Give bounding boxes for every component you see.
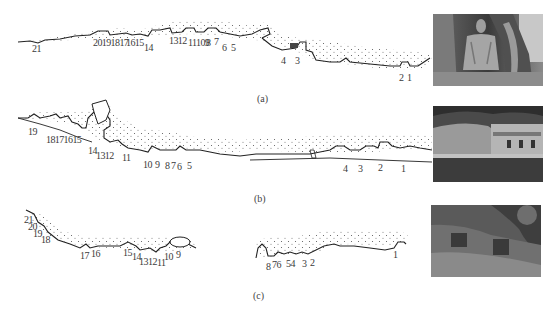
cave-number-label: 9	[176, 250, 180, 260]
cave-number-label: 11	[122, 153, 130, 163]
cave-number-label: 5	[231, 43, 235, 53]
profile-b	[18, 100, 432, 162]
cave-number-label: 1	[393, 250, 397, 260]
cave-number-label: 1312	[169, 36, 187, 46]
caption-a: (a)	[257, 93, 268, 104]
cave-number-label: 3	[358, 164, 362, 174]
cave-number-label: 76	[272, 260, 281, 270]
caption-c: (c)	[253, 290, 264, 301]
cave-number-label: 8	[165, 161, 169, 171]
seated-buddha-grotto-photo	[433, 14, 543, 86]
cave-number-label: 16	[91, 249, 100, 259]
cave-number-label: 12	[148, 257, 157, 267]
cave-number-label: 21	[32, 44, 41, 54]
cave-number-label: 4	[281, 56, 285, 66]
cave-number-label: 6	[177, 162, 181, 172]
profile-c-left	[26, 210, 196, 252]
cave-number-label: 5	[187, 161, 191, 171]
cave-number-label: 54	[286, 259, 295, 269]
cave-number-label: 4	[343, 164, 347, 174]
caption-b: (b)	[254, 193, 266, 204]
cave-number-label: 8	[206, 38, 210, 48]
cave-number-label: 15	[123, 248, 132, 258]
cave-number-label: 14	[144, 43, 153, 53]
wooded-cliff-grotto-photo	[431, 205, 541, 277]
cave-number-label: 17	[80, 251, 89, 261]
cave-number-label: 6	[222, 43, 226, 53]
cave-number-label: 7	[171, 161, 175, 171]
cave-number-label: 18	[41, 235, 50, 245]
riverside-cliff-temple-photo	[433, 106, 543, 182]
cave-number-label: 13	[139, 257, 148, 267]
cave-number-label: 19	[28, 127, 37, 137]
cave-number-label: 1312	[96, 151, 114, 161]
cave-number-label: 3	[302, 259, 306, 269]
cave-number-label: 3	[295, 56, 299, 66]
profile-c-right	[256, 230, 408, 258]
cave-number-label: 8	[266, 262, 270, 272]
cave-number-label: 1615	[126, 38, 144, 48]
cave-number-label: 1	[401, 164, 405, 174]
cave-number-label: 7	[214, 37, 218, 47]
cave-number-label: 20191817	[93, 38, 128, 48]
cave-number-label: 10	[143, 160, 152, 170]
cave-number-label: 2	[378, 163, 382, 173]
cave-number-label: 2	[310, 258, 314, 268]
cave-number-label: 9	[155, 160, 159, 170]
cave-number-label: 10	[164, 252, 173, 262]
cave-number-label: 2	[399, 73, 403, 83]
cave-number-label: 1	[407, 73, 411, 83]
cave-number-label: 18171615	[46, 135, 81, 145]
